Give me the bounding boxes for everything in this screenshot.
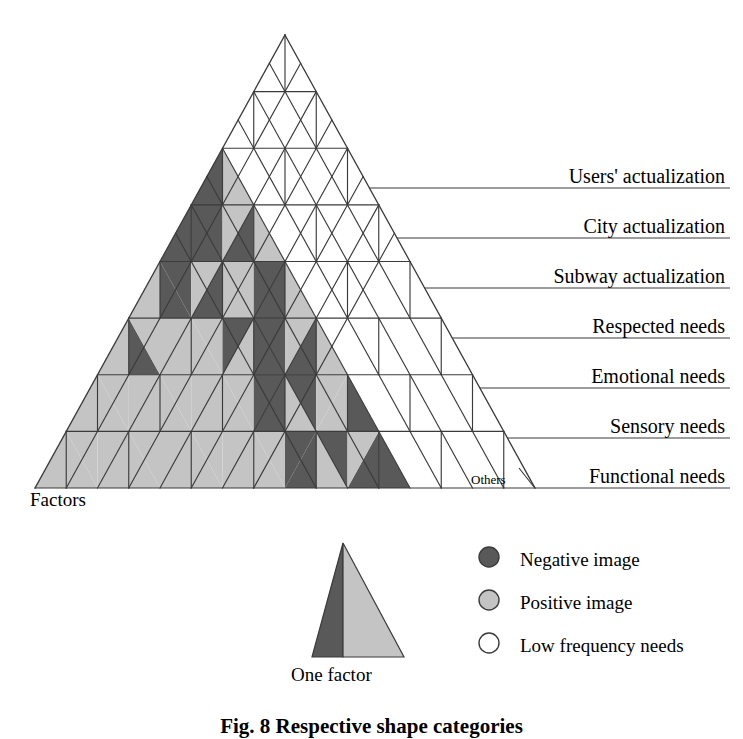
row-label-3: Respected needs bbox=[592, 315, 725, 338]
legend-swatch-low bbox=[479, 633, 499, 653]
legend-item-label-negative: Negative image bbox=[520, 549, 640, 571]
others-label: Others bbox=[471, 472, 506, 488]
legend-one-factor-negative-half bbox=[312, 543, 343, 657]
row-label-5: Sensory needs bbox=[610, 415, 725, 438]
row-label-2: Subway actualization bbox=[553, 265, 725, 288]
row-label-4: Emotional needs bbox=[591, 365, 725, 388]
factors-axis-label: Factors bbox=[30, 489, 86, 511]
legend-item-label-low: Low frequency needs bbox=[520, 635, 684, 657]
legend-one-factor-label: One factor bbox=[291, 664, 372, 686]
row-label-6: Functional needs bbox=[589, 465, 725, 488]
row-label-1: City actualization bbox=[583, 215, 725, 238]
legend-item-label-positive: Positive image bbox=[520, 592, 632, 614]
figure-caption: Fig. 8 Respective shape categories bbox=[0, 714, 743, 739]
row-label-0: Users' actualization bbox=[569, 165, 725, 188]
legend-swatch-positive bbox=[479, 590, 499, 610]
legend-swatch-negative bbox=[479, 547, 499, 567]
legend-artwork-group bbox=[312, 543, 499, 657]
legend-one-factor-positive-half bbox=[343, 543, 404, 657]
